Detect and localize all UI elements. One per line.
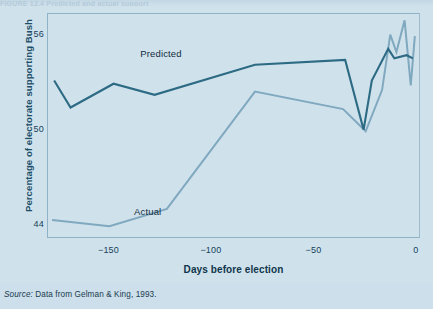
data-series-layer — [52, 20, 415, 226]
x-tick-label: −100 — [189, 245, 233, 255]
source-prefix: Source: — [4, 290, 33, 299]
x-axis-tick-labels: −150−100−500 — [47, 245, 420, 261]
y-tick-label: 44 — [24, 219, 44, 229]
y-tick-label: 50 — [24, 124, 44, 134]
source-note: Source: Data from Gelman & King, 1993. — [4, 290, 157, 299]
x-axis-label: Days before election — [47, 264, 420, 275]
y-axis-tick-labels: 445056 — [20, 6, 44, 256]
series-line-actual — [52, 20, 415, 226]
series-annotation-actual: Actual — [134, 206, 161, 217]
plot-area: Predicted Actual — [47, 13, 420, 238]
x-tick-label: 0 — [394, 245, 433, 255]
x-tick-label: −150 — [86, 245, 130, 255]
figure-panel: Percentage of electorate supporting Bush… — [0, 6, 433, 283]
chart-canvas — [48, 14, 421, 239]
series-annotation-predicted: Predicted — [140, 48, 181, 59]
x-tick-label: −50 — [291, 245, 335, 255]
source-text: Data from Gelman & King, 1993. — [33, 290, 157, 299]
series-line-predicted — [54, 49, 413, 130]
y-tick-label: 56 — [24, 29, 44, 39]
